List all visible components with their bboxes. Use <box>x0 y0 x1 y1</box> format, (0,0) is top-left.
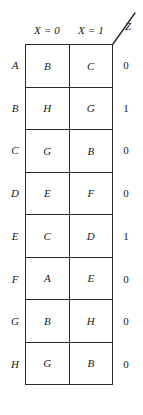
table-row: G B <box>26 130 112 173</box>
output-column-label: Z <box>125 20 131 32</box>
column-header-x1-text: X = 1 <box>78 24 104 36</box>
state-label: E <box>8 230 22 242</box>
state-label: G <box>8 315 22 327</box>
table-row: B C <box>26 45 112 88</box>
table-row: A E <box>26 258 112 301</box>
transition-grid: B C H G G B E F C D A E B H G B <box>25 44 113 385</box>
output-value: 0 <box>120 273 132 285</box>
next-state-cell-x0: A <box>26 258 70 300</box>
next-state-cell-x0: E <box>26 173 70 215</box>
state-transition-table-figure: X = 0 X = 1 Z B C H G G B E F C D A <box>0 0 143 415</box>
next-state-cell-x1: B <box>70 343 113 385</box>
next-state-cell-x1: D <box>70 215 113 257</box>
next-state-cell-x1: C <box>70 45 113 87</box>
state-label: A <box>8 59 22 71</box>
output-pointer-line-icon <box>104 8 143 48</box>
state-label: F <box>8 273 22 285</box>
state-label: D <box>8 187 22 199</box>
output-value: 0 <box>120 358 132 370</box>
output-value: 1 <box>120 230 132 242</box>
table-row: H G <box>26 88 112 131</box>
state-label: B <box>8 102 22 114</box>
table-row: E F <box>26 173 112 216</box>
table-row: B H <box>26 300 112 343</box>
next-state-cell-x1: F <box>70 173 113 215</box>
state-label: H <box>8 358 22 370</box>
column-header-x0-text: X = 0 <box>34 24 60 36</box>
output-value: 0 <box>120 187 132 199</box>
next-state-cell-x0: C <box>26 215 70 257</box>
next-state-cell-x0: G <box>26 130 70 172</box>
table-row: C D <box>26 215 112 258</box>
next-state-cell-x0: G <box>26 343 70 385</box>
next-state-cell-x0: B <box>26 300 70 342</box>
output-value: 0 <box>120 315 132 327</box>
next-state-cell-x1: G <box>70 88 113 130</box>
output-value: 0 <box>120 59 132 71</box>
column-header-x0: X = 0 <box>25 23 69 37</box>
next-state-cell-x1: E <box>70 258 113 300</box>
output-value: 0 <box>120 144 132 156</box>
next-state-cell-x0: B <box>26 45 70 87</box>
next-state-cell-x0: H <box>26 88 70 130</box>
state-label: C <box>8 144 22 156</box>
next-state-cell-x1: B <box>70 130 113 172</box>
table-row: G B <box>26 343 112 385</box>
output-value: 1 <box>120 102 132 114</box>
next-state-cell-x1: H <box>70 300 113 342</box>
